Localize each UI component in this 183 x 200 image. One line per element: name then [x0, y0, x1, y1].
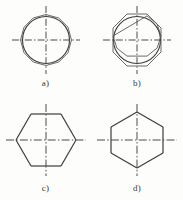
figure-b-centerlines: [103, 6, 171, 74]
figure-c-edge-lower-right: [61, 140, 76, 166]
figure-c-drawing: [0, 96, 92, 184]
figure-d: d): [91, 96, 183, 200]
figure-grid: a) b): [0, 0, 183, 200]
figure-b: b): [91, 0, 183, 96]
figure-d-edge-lower-right: [137, 153, 163, 168]
figure-d-edge-upper-right: [137, 112, 163, 127]
figure-c-centerlines: [6, 104, 86, 176]
figure-b-drawing: [91, 0, 183, 80]
figure-d-edge-lower-left: [111, 153, 137, 168]
drawing-sheet: a) b): [0, 0, 183, 200]
figure-a-label: a): [42, 79, 49, 88]
figure-c-edge-lower-left: [16, 140, 31, 166]
figure-b-label: b): [133, 79, 141, 88]
figure-d-edge-upper-left: [111, 112, 137, 127]
figure-d-label: d): [133, 184, 141, 193]
figure-c-label: c): [42, 184, 49, 193]
figure-c-edge-upper-left: [16, 114, 31, 140]
figure-a-drawing: [0, 0, 92, 80]
figure-a-centerlines: [12, 6, 80, 74]
figure-d-drawing: [91, 96, 183, 184]
figure-c-edge-upper-right: [61, 114, 76, 140]
figure-d-centerlines: [97, 104, 177, 176]
figure-c: c): [0, 96, 91, 200]
figure-a: a): [0, 0, 91, 96]
